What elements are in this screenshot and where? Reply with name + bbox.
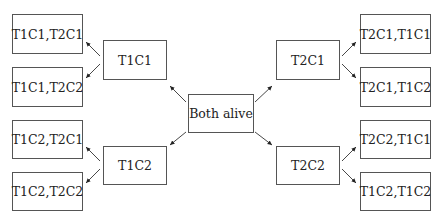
leaf-t1c2-t1c2: T1C2,T1C2 <box>360 172 431 211</box>
node-t2c2: T2C2 <box>276 146 340 185</box>
node-both-alive: Both alive <box>188 94 254 133</box>
node-label: Both alive <box>189 106 253 121</box>
edge-t1c1-leaf2 <box>86 64 100 78</box>
leaf-t2c1-t1c2: T2C1,T1C2 <box>360 67 431 107</box>
leaf-t1c2-t2c1: T1C2,T2C1 <box>12 120 83 159</box>
leaf-t2c1-t1c1: T2C1,T1C1 <box>360 14 431 54</box>
node-label: T1C2,T2C2 <box>12 184 84 199</box>
node-t2c1: T2C1 <box>276 40 340 80</box>
node-label: T2C1,T1C2 <box>360 80 432 95</box>
edge-root-t1c2 <box>170 132 186 145</box>
edge-root-t2c1 <box>255 86 272 102</box>
edge-root-t2c2 <box>255 132 272 145</box>
leaf-t1c1-t2c1: T1C1,T2C1 <box>12 14 83 54</box>
node-t1c2: T1C2 <box>103 146 167 185</box>
leaf-t2c2-t1c1: T2C2,T1C1 <box>360 120 431 159</box>
edge-t1c2-leaf2 <box>86 169 100 183</box>
edge-t1c1-leaf1 <box>86 42 100 56</box>
edge-t2c2-leaf1 <box>342 147 356 161</box>
node-label: T2C1 <box>291 53 325 68</box>
leaf-t1c2-t2c2: T1C2,T2C2 <box>12 172 83 211</box>
node-label: T1C1,T2C1 <box>12 27 84 42</box>
node-label: T1C2,T2C1 <box>12 132 84 147</box>
node-t1c1: T1C1 <box>103 40 167 80</box>
edge-t2c2-leaf2 <box>342 169 356 183</box>
node-label: T2C1,T1C1 <box>360 27 432 42</box>
node-label: T1C2 <box>118 158 152 173</box>
edge-t2c1-leaf2 <box>342 64 356 78</box>
node-label: T2C2,T1C1 <box>360 132 432 147</box>
node-label: T2C2 <box>291 158 325 173</box>
node-label: T1C1 <box>118 53 152 68</box>
leaf-t1c1-t2c2: T1C1,T2C2 <box>12 67 83 107</box>
node-label: T1C1,T2C2 <box>12 80 84 95</box>
node-label: T1C2,T1C2 <box>360 184 432 199</box>
edge-root-t1c1 <box>170 86 186 102</box>
edge-t2c1-leaf1 <box>342 42 356 56</box>
edge-t1c2-leaf1 <box>86 147 100 161</box>
